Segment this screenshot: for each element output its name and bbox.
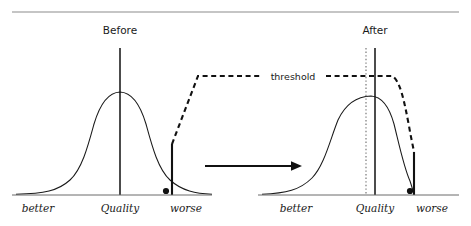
axis-label-quality-before: Quality — [101, 202, 141, 215]
panel-title-after: After — [362, 24, 388, 36]
distribution-curve-before — [16, 92, 212, 194]
arrow-head — [291, 161, 302, 170]
axis-label-better-after: better — [280, 202, 314, 214]
axis-label-worse-before: worse — [170, 202, 202, 214]
panel-title-before: Before — [103, 24, 137, 36]
axis-label-quality-after: Quality — [356, 202, 396, 215]
axis-label-worse-after: worse — [416, 202, 448, 214]
threshold-indicator: threshold — [172, 71, 414, 153]
threshold-dot-after — [407, 188, 413, 194]
transition-arrow — [205, 161, 302, 170]
quality-threshold-diagram: Before better Quality worse threshold — [0, 0, 471, 226]
threshold-line-left — [172, 76, 262, 144]
panel-after: After better Quality worse — [258, 24, 459, 215]
distribution-curve-after — [262, 96, 414, 194]
diagram-canvas: Before better Quality worse threshold — [0, 0, 471, 226]
axis-label-better-before: better — [22, 202, 56, 214]
threshold-dot-before — [163, 188, 169, 194]
threshold-line-right — [326, 76, 414, 152]
threshold-label: threshold — [271, 71, 316, 82]
